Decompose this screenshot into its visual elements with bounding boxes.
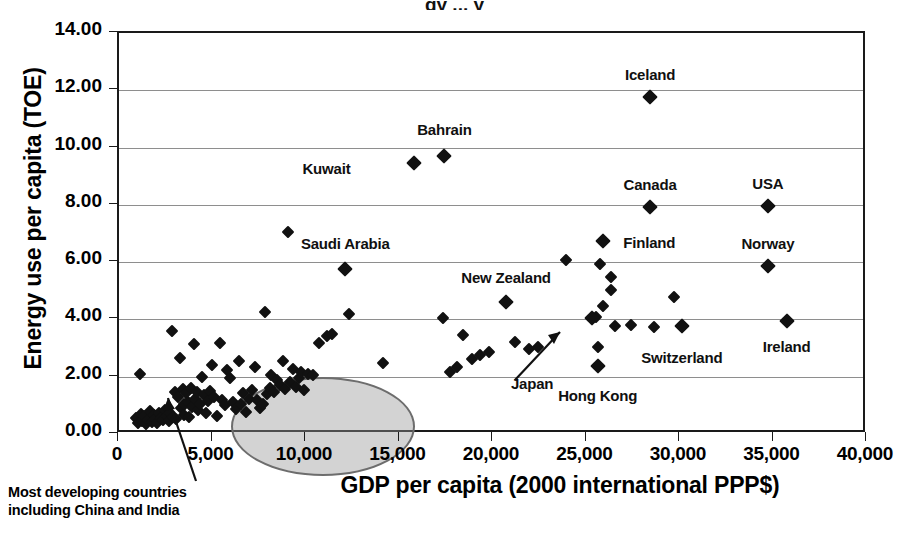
chart-figure: gy ... y Energy use per capita (TOE) 0.0…: [0, 0, 909, 535]
developing-countries-callout: Most developing countries including Chin…: [8, 483, 187, 519]
callout-arrow-icon: [0, 0, 909, 535]
